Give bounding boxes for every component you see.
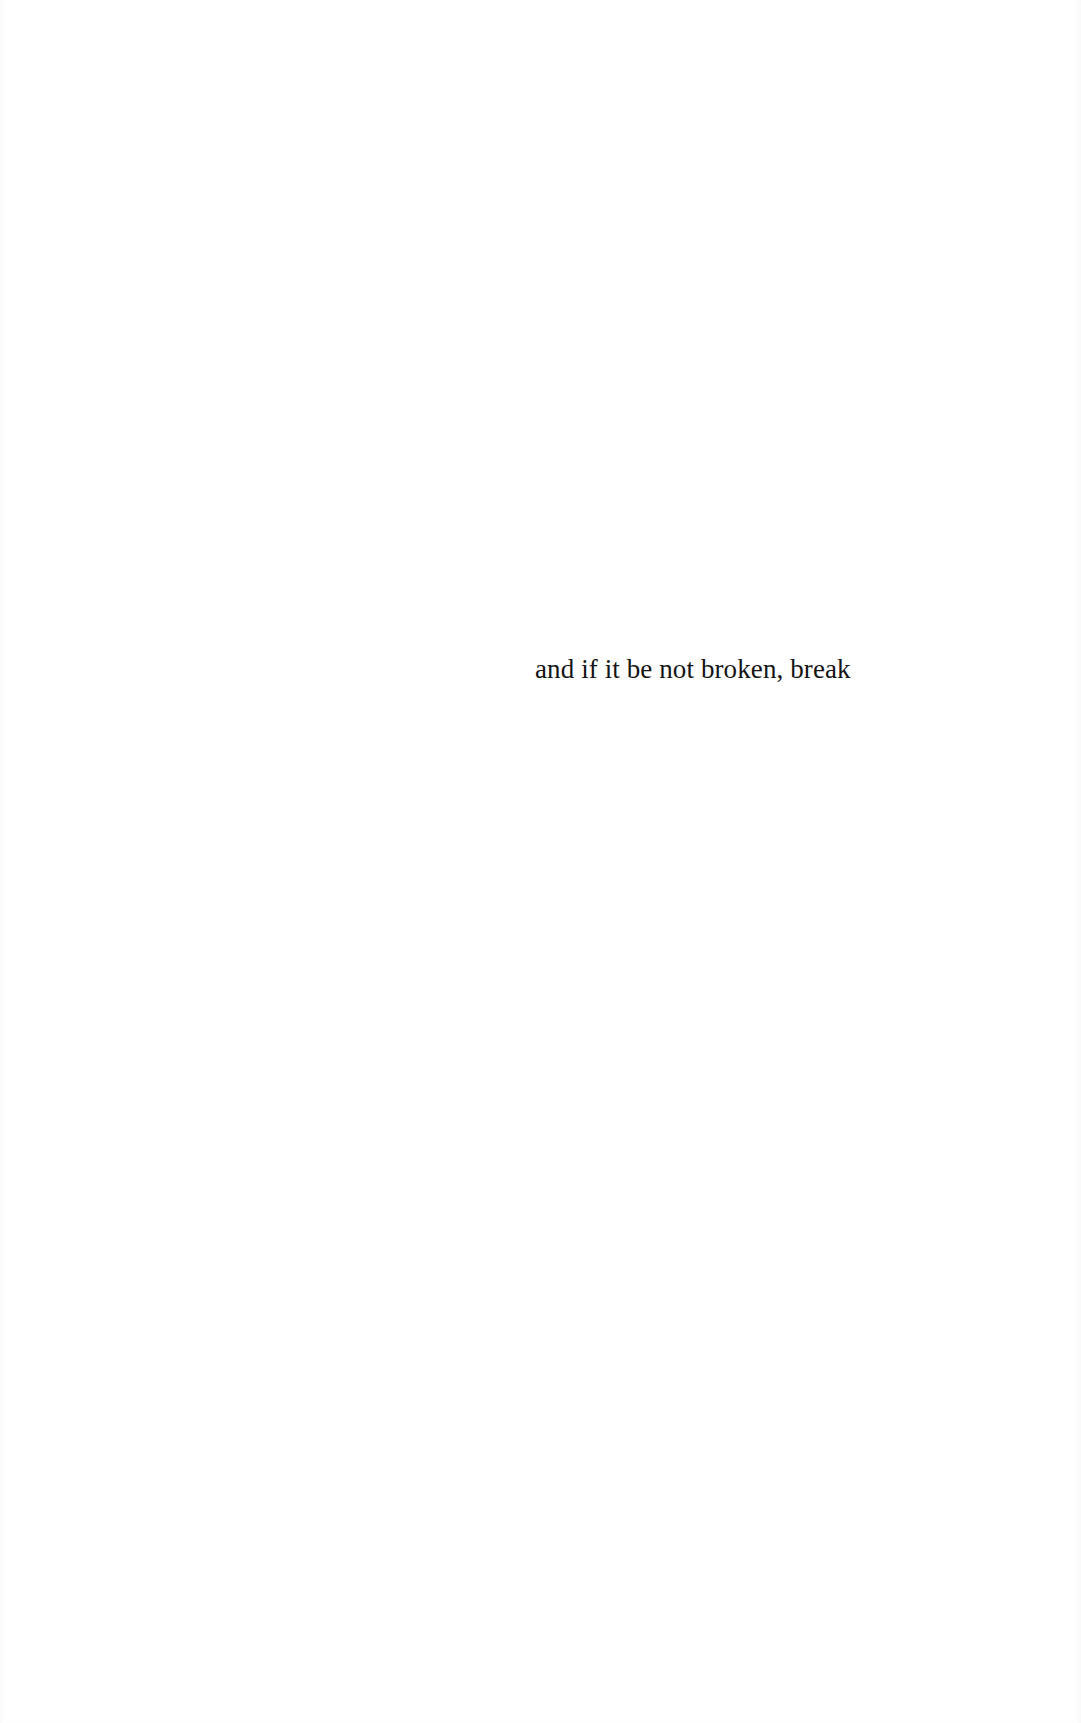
epigraph-text: and if it be not broken, break bbox=[535, 651, 851, 687]
book-page: and if it be not broken, break bbox=[0, 0, 1081, 1723]
